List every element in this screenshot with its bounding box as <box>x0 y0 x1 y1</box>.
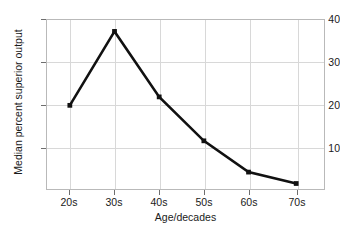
data-point-60s <box>246 170 251 175</box>
data-point-30s <box>112 29 117 34</box>
y-axis-title-container: Median percent superior output <box>0 0 14 210</box>
x-tick-mark-70s <box>297 190 298 195</box>
data-point-70s <box>294 181 299 186</box>
x-tick-label-20s: 20s <box>49 197 89 208</box>
x-tick-label-70s: 70s <box>277 197 317 208</box>
line-chart: Median percent superior output 40 30 20 … <box>0 0 340 231</box>
x-tick-label-60s: 60s <box>229 197 269 208</box>
data-point-40s <box>157 95 162 100</box>
x-tick-label-30s: 30s <box>94 197 134 208</box>
x-tick-mark-30s <box>114 190 115 195</box>
plot-area <box>46 19 325 190</box>
x-axis-title: Age/decades <box>46 211 325 223</box>
x-tick-label-50s: 50s <box>184 197 224 208</box>
x-tick-mark-60s <box>249 190 250 195</box>
x-tick-mark-40s <box>159 190 160 195</box>
x-tick-label-40s: 40s <box>139 197 179 208</box>
series-polyline <box>70 31 296 183</box>
data-series-line <box>47 20 324 189</box>
x-tick-mark-20s <box>69 190 70 195</box>
data-point-50s <box>201 138 206 143</box>
x-tick-mark-50s <box>204 190 205 195</box>
data-point-20s <box>67 103 72 108</box>
y-axis-title: Median percent superior output <box>12 22 24 182</box>
